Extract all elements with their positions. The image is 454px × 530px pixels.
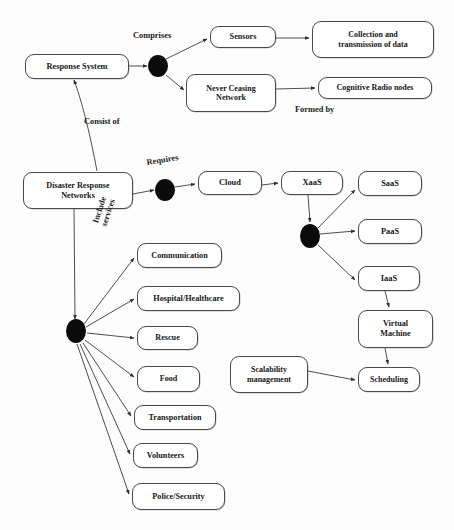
edge-merge-services-to-food: [85, 340, 134, 377]
edge-scalability-to-scheduling: [308, 371, 355, 380]
node-label: Scheduling: [370, 375, 408, 384]
edge-cloud-to-xaas: [262, 183, 278, 185]
edge-drn-to-merge-requires: [133, 190, 154, 194]
edge-label-requires: Requires: [146, 153, 179, 167]
node-label: XaaS: [302, 178, 321, 188]
node-scalability-management[interactable]: Scalability management: [230, 356, 308, 393]
node-label: SaaS: [381, 179, 399, 189]
node-saas[interactable]: SaaS: [358, 171, 422, 196]
edge-label-comprises: Comprises: [133, 31, 171, 40]
edge-merge-requires-to-cloud: [175, 184, 195, 187]
node-label: Virtual Machine: [380, 319, 410, 338]
diagram-canvas: Response System Sensors Collection and t…: [0, 0, 454, 530]
node-police-security[interactable]: Police/Security: [132, 483, 225, 510]
edge-merge-to-iaas: [318, 245, 355, 280]
node-rescue[interactable]: Rescue: [137, 326, 198, 350]
node-label: Sensors: [230, 32, 257, 42]
node-label: Communication: [151, 251, 207, 261]
node-sensors[interactable]: Sensors: [210, 26, 276, 48]
edge-iaas-to-virtual-machine: [385, 291, 389, 307]
edge-merge-services-to-hospital: [86, 299, 134, 327]
node-food[interactable]: Food: [137, 366, 200, 392]
edge-merge-services-to-police: [77, 344, 129, 494]
node-cognitive-radio-nodes[interactable]: Cognitive Radio nodes: [318, 77, 432, 99]
node-label: Food: [160, 374, 178, 384]
node-hospital-healthcare[interactable]: Hospital/Healthcare: [137, 286, 240, 311]
node-label: Volunteers: [147, 451, 184, 461]
edge-xaas-to-merge: [308, 195, 310, 222]
merge-node-xaas[interactable]: [300, 224, 320, 248]
node-label: Cognitive Radio nodes: [337, 83, 414, 92]
edge-virtual-machine-to-scheduling: [385, 348, 388, 364]
node-label: Transportation: [148, 413, 201, 423]
node-virtual-machine[interactable]: Virtual Machine: [358, 310, 433, 348]
merge-node-requires[interactable]: [155, 179, 175, 201]
node-label: IaaS: [381, 274, 397, 284]
edge-merge-services-to-rescue: [87, 333, 134, 338]
node-label: Collection and transmission of data: [338, 30, 407, 49]
node-collection-transmission[interactable]: Collection and transmission of data: [312, 21, 434, 58]
node-iaas[interactable]: IaaS: [358, 266, 420, 291]
merge-node-comprises[interactable]: [148, 55, 168, 77]
node-communication[interactable]: Communication: [137, 243, 222, 268]
edge-merge-services-to-communication: [84, 258, 134, 324]
node-label: Response System: [46, 62, 107, 72]
merge-node-services[interactable]: [66, 319, 86, 343]
node-scheduling[interactable]: Scheduling: [358, 367, 420, 392]
edge-merge-to-paas: [320, 231, 355, 234]
edge-merge-to-never-ceasing: [166, 75, 184, 90]
node-volunteers[interactable]: Volunteers: [133, 443, 198, 468]
node-transportation[interactable]: Transportation: [134, 405, 216, 430]
edge-label-consist-of: Consist of: [84, 117, 120, 126]
node-label: Rescue: [155, 333, 180, 343]
node-cloud[interactable]: Cloud: [198, 171, 262, 195]
node-xaas[interactable]: XaaS: [281, 171, 343, 195]
edge-merge-to-saas: [318, 190, 355, 228]
edge-merge-services-to-volunteers: [80, 344, 130, 454]
node-label: Police/Security: [152, 492, 204, 502]
edge-drn-to-merge-services: [74, 209, 75, 319]
node-label: Hospital/Healthcare: [153, 294, 223, 304]
edge-merge-services-to-transportation: [83, 343, 131, 416]
node-never-ceasing-network[interactable]: Never Ceasing Network: [186, 74, 276, 112]
edge-never-ceasing-to-cognitive: [276, 88, 315, 89]
edge-label-formed-by: Formed by: [295, 105, 334, 114]
node-paas[interactable]: PaaS: [358, 219, 422, 244]
node-response-system[interactable]: Response System: [25, 54, 129, 79]
node-label: Scalability management: [247, 365, 291, 384]
node-label: Never Ceasing Network: [206, 84, 255, 103]
node-label: Cloud: [219, 178, 241, 188]
edge-merge-to-sensors: [166, 39, 207, 59]
node-label: PaaS: [381, 227, 399, 237]
